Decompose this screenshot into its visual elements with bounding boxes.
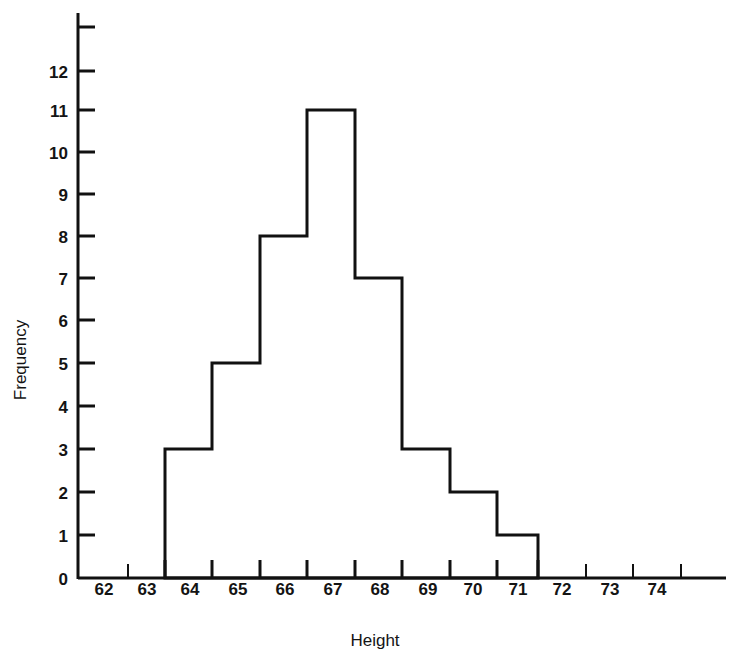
bar-69 [402, 449, 450, 578]
x-label-69: 69 [419, 580, 438, 599]
bar-70 [450, 492, 497, 578]
y-label-5: 5 [59, 355, 68, 374]
x-label-74: 74 [648, 580, 667, 599]
x-label-72: 72 [553, 580, 572, 599]
x-label-67: 67 [324, 580, 343, 599]
x-axis-title: Height [350, 631, 399, 650]
bar-64 [165, 449, 212, 578]
x-label-64: 64 [181, 580, 200, 599]
bar-65 [212, 363, 260, 578]
y-axis-ticks [78, 27, 95, 535]
bar-68 [355, 278, 402, 578]
y-label-1: 1 [59, 527, 68, 546]
x-label-63: 63 [138, 580, 157, 599]
histogram-svg: 12 11 10 9 8 7 6 5 4 3 2 1 0 [0, 0, 735, 671]
y-label-7: 7 [59, 270, 68, 289]
histogram-chart: 12 11 10 9 8 7 6 5 4 3 2 1 0 [0, 0, 735, 671]
y-axis-tick-labels: 12 11 10 9 8 7 6 5 4 3 2 1 0 [49, 63, 68, 589]
y-label-12: 12 [49, 63, 68, 82]
x-label-71: 71 [509, 580, 528, 599]
bar-67 [307, 110, 355, 578]
x-label-66: 66 [276, 580, 295, 599]
y-label-10: 10 [49, 144, 68, 163]
y-label-2: 2 [59, 484, 68, 503]
y-label-8: 8 [59, 228, 68, 247]
x-axis-tick-labels: 62 63 64 65 66 67 68 69 70 71 72 73 74 [95, 580, 667, 599]
y-label-11: 11 [50, 102, 68, 121]
x-label-62: 62 [95, 580, 114, 599]
bar-71 [497, 535, 538, 578]
x-label-65: 65 [229, 580, 248, 599]
x-label-68: 68 [371, 580, 390, 599]
x-label-73: 73 [601, 580, 620, 599]
y-label-4: 4 [59, 398, 69, 417]
y-label-9: 9 [59, 186, 68, 205]
x-label-70: 70 [464, 580, 483, 599]
bar-hit-targets [165, 110, 538, 578]
bar-66 [260, 236, 307, 578]
y-axis-title: Frequency [11, 319, 30, 400]
y-label-3: 3 [59, 441, 68, 460]
y-label-6: 6 [59, 312, 68, 331]
y-label-0: 0 [59, 570, 68, 589]
